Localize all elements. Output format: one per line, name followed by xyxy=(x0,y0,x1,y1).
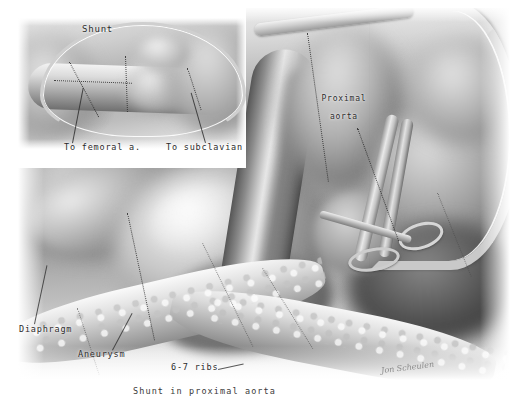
label-diaphragm: Diaphragm xyxy=(19,325,72,335)
label-aneurysm: Aneurysm xyxy=(78,350,125,360)
label-ribs: 6-7 ribs xyxy=(171,363,218,373)
label-to-femoral-artery: To femoral a. xyxy=(64,143,141,153)
figure-caption: Shunt in proximal aorta xyxy=(133,386,276,396)
label-proximal-aorta: Proximal aorta xyxy=(299,86,366,131)
label-to-subclavian: To subclavian xyxy=(166,143,243,153)
medical-illustration-figure: Proximal aorta Diaphragm Aneurysm 6-7 ri… xyxy=(0,0,526,403)
label-shunt: Shunt xyxy=(82,24,113,34)
